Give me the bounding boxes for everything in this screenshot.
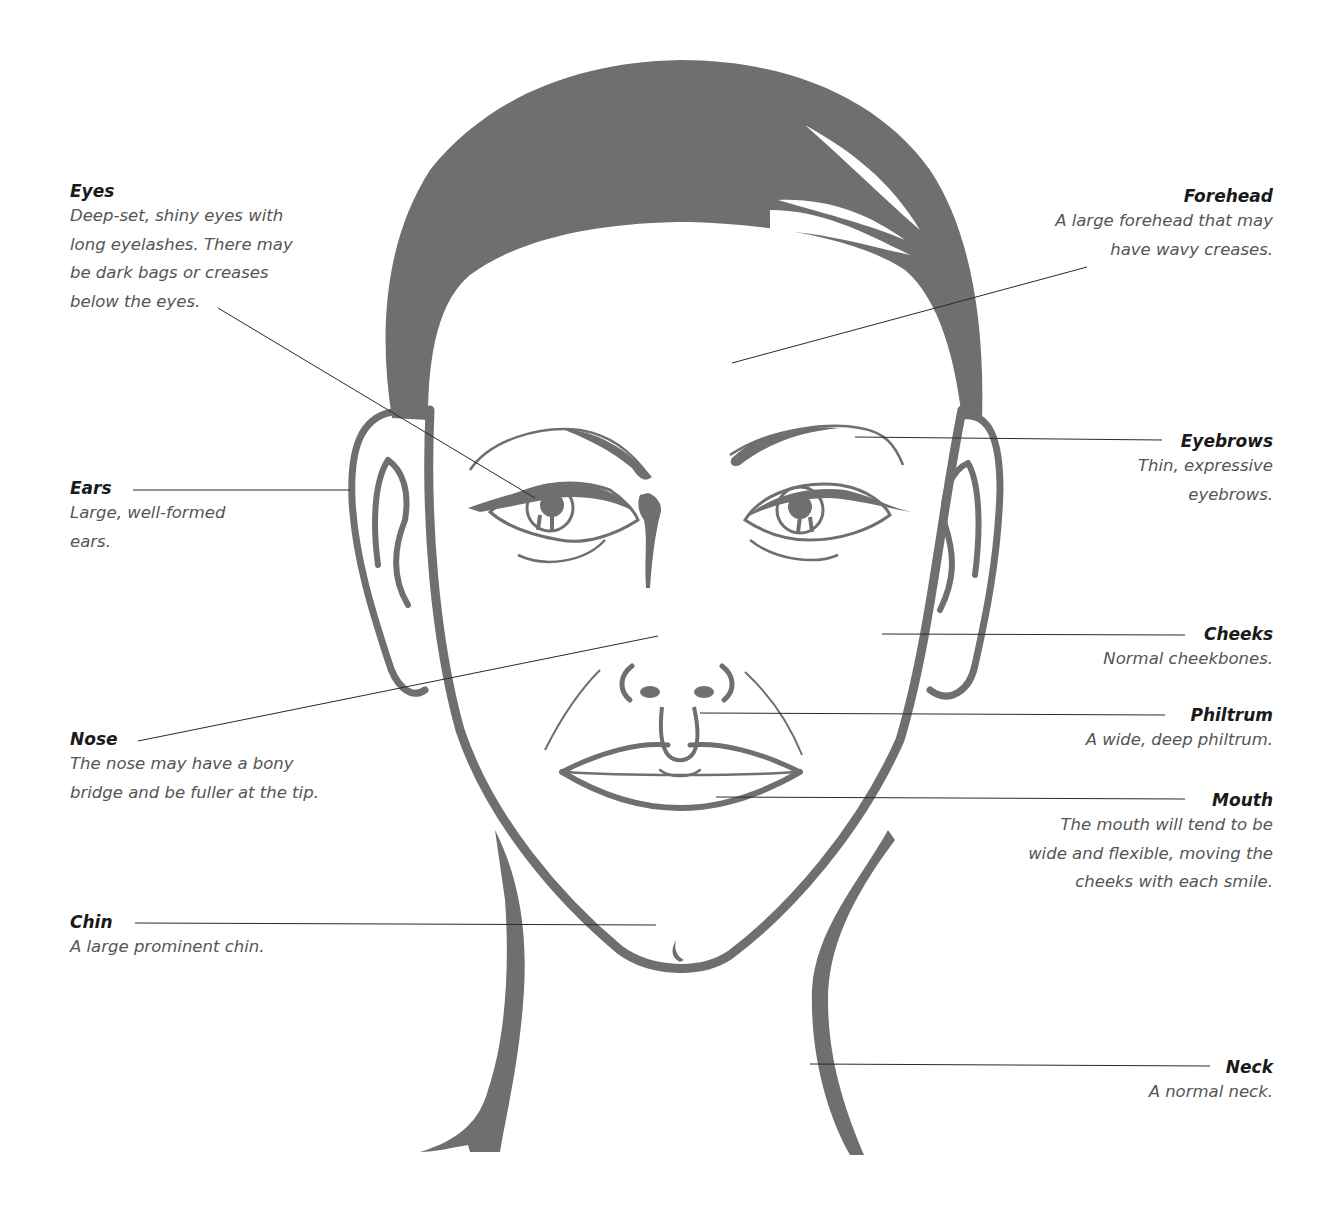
annotation-title: Neck — [1149, 1056, 1273, 1078]
eye-right — [745, 484, 912, 560]
annotation-philtrum: Philtrum A wide, deep philtrum. — [1086, 704, 1273, 755]
annotation-title: Chin — [70, 911, 265, 933]
hair — [386, 60, 983, 420]
annotation-title: Cheeks — [1103, 623, 1273, 645]
chin-dimple — [673, 940, 684, 962]
annotation-title: Eyebrows — [1138, 430, 1273, 452]
annotation-desc: The nose may have a bony bridge and be f… — [70, 750, 319, 807]
neck-right — [812, 830, 895, 1155]
annotation-desc: Normal cheekbones. — [1103, 645, 1273, 674]
annotation-nose: Nose The nose may have a bony bridge and… — [70, 728, 319, 807]
annotation-desc: A large prominent chin. — [70, 933, 265, 962]
eyebrows — [470, 426, 903, 480]
annotation-ears: Ears Large, well-formed ears. — [70, 477, 225, 556]
neck-left — [420, 830, 525, 1152]
leader-eyebrows — [855, 437, 1162, 440]
leader-nose — [138, 636, 658, 741]
annotation-title: Philtrum — [1086, 704, 1273, 726]
annotation-title: Forehead — [1055, 185, 1273, 207]
annotation-title: Mouth — [1028, 789, 1273, 811]
annotation-eyes: Eyes Deep-set, shiny eyes with long eyel… — [70, 180, 293, 316]
annotation-forehead: Forehead A large forehead that may have … — [1055, 185, 1273, 264]
smile-line-left — [545, 670, 600, 750]
annotation-eyebrows: Eyebrows Thin, expressive eyebrows. — [1138, 430, 1273, 509]
eye-left — [468, 483, 638, 562]
leader-eyes — [218, 308, 535, 498]
annotation-desc: Large, well-formed ears. — [70, 499, 225, 556]
annotation-chin: Chin A large prominent chin. — [70, 911, 265, 962]
leader-lines — [133, 267, 1210, 1066]
annotation-title: Ears — [70, 477, 225, 499]
annotation-desc: Deep-set, shiny eyes with long eyelashes… — [70, 202, 293, 316]
annotation-neck: Neck A normal neck. — [1149, 1056, 1273, 1107]
nose-bridge — [638, 493, 661, 588]
annotation-desc: A large forehead that may have wavy crea… — [1055, 207, 1273, 264]
annotation-desc: A normal neck. — [1149, 1078, 1273, 1107]
annotation-desc: The mouth will tend to be wide and flexi… — [1028, 811, 1273, 897]
ear-left — [352, 412, 425, 693]
annotation-mouth: Mouth The mouth will tend to be wide and… — [1028, 789, 1273, 897]
annotation-desc: A wide, deep philtrum. — [1086, 726, 1273, 755]
annotation-title: Eyes — [70, 180, 293, 202]
annotation-title: Nose — [70, 728, 319, 750]
mouth — [562, 744, 800, 808]
leader-forehead — [732, 267, 1087, 363]
annotation-cheeks: Cheeks Normal cheekbones. — [1103, 623, 1273, 674]
annotation-desc: Thin, expressive eyebrows. — [1138, 452, 1273, 509]
